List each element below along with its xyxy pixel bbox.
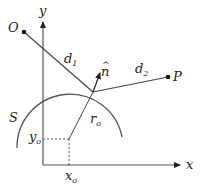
point-P-label: P — [172, 69, 182, 84]
y0-label: yo — [28, 129, 41, 146]
d1-line — [24, 32, 93, 92]
normal-vector — [93, 73, 100, 92]
point-O — [22, 30, 27, 35]
y-axis-label: y — [38, 3, 47, 18]
x-axis-label: x — [186, 157, 194, 172]
surface-label: S — [9, 110, 18, 125]
normal-hat: ^ — [102, 60, 110, 70]
d2-line — [93, 77, 168, 92]
point-O-label: O — [8, 20, 19, 35]
radius-label: ro — [90, 111, 101, 128]
d2-label: d2 — [135, 61, 148, 78]
point-P — [166, 75, 171, 80]
d1-label: d1 — [64, 51, 77, 68]
x0-label: xo — [65, 168, 77, 185]
diagram-canvas: y x O P d1 d2 n ^ S ro yo xo — [0, 0, 201, 190]
